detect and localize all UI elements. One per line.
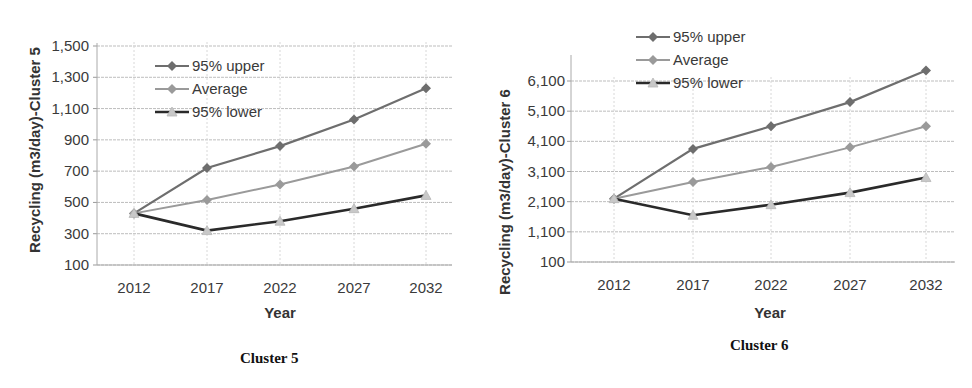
y-tick-label: 100	[540, 253, 565, 270]
y-tick-label: 4,100	[527, 132, 565, 149]
legend-label: 95% upper	[673, 28, 746, 45]
series-average	[609, 121, 931, 203]
data-point	[688, 177, 698, 187]
x-axis-title: Year	[754, 304, 786, 321]
series-95-lower	[609, 173, 931, 220]
y-axis-title: Recycling (m3/day)-Cluster 6	[496, 89, 513, 295]
caption-cluster-6: Cluster 6	[730, 337, 788, 354]
data-point	[766, 162, 776, 172]
y-tick-label: 1,100	[527, 223, 565, 240]
x-tick-label: 2027	[833, 276, 866, 293]
legend-item: Average	[636, 51, 729, 68]
x-tick-label: 2022	[754, 276, 787, 293]
data-point	[845, 97, 855, 107]
x-tick-label: 2032	[909, 276, 942, 293]
y-tick-label: 2,100	[527, 193, 565, 210]
diamond-marker-icon	[648, 32, 658, 42]
y-tick-label: 5,100	[527, 102, 565, 119]
legend-label: 95% lower	[673, 74, 743, 91]
data-point	[766, 121, 776, 131]
diamond-marker-icon	[648, 55, 658, 65]
x-tick-label: 2017	[676, 276, 709, 293]
data-point	[845, 142, 855, 152]
series-line	[614, 178, 926, 216]
legend-label: Average	[673, 51, 729, 68]
x-tick-label: 2012	[597, 276, 630, 293]
y-tick-label: 6,100	[527, 72, 565, 89]
line-chart-cluster-6: 6,1005,1004,1003,1002,1001,1001002012201…	[0, 0, 972, 388]
data-point	[921, 65, 931, 75]
legend-item: 95% upper	[636, 28, 746, 45]
legend: 95% upperAverage95% lower	[636, 28, 746, 91]
gridlines: 6,1005,1004,1003,1002,1001,100100	[527, 72, 955, 270]
series-line	[614, 70, 926, 198]
legend-item: 95% lower	[636, 74, 743, 91]
y-tick-label: 3,100	[527, 163, 565, 180]
data-point	[921, 121, 931, 131]
chart-cluster-6: 6,1005,1004,1003,1002,1001,1001002012201…	[0, 0, 972, 388]
